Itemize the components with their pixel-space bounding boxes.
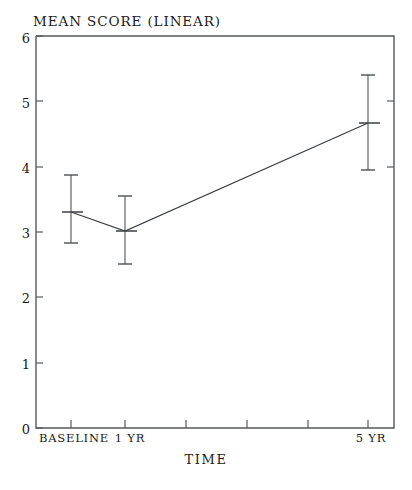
x-tick-label-1yr: 1 YR [115,431,145,445]
plot-area: 6 5 4 3 2 1 0 [0,0,412,448]
y-tick-label-3: 3 [22,226,30,241]
y-tick-label-6: 6 [22,31,30,46]
x-tick-labels: BASELINE 1 YR 5 YR [39,431,386,445]
y-tick-marks-right [387,101,394,167]
y-tick-marks [36,36,43,428]
series-line-mean-score [71,123,368,231]
error-bar-5yr [359,75,380,170]
y-tick-label-0: 0 [22,422,30,437]
x-tick-label-5yr: 5 YR [356,431,386,445]
x-tick-label-baseline: BASELINE [39,431,109,445]
y-tick-labels: 6 5 4 3 2 1 0 [22,31,30,437]
plot-frame [36,36,394,428]
x-tick-marks [71,420,368,428]
y-tick-label-2: 2 [22,291,30,306]
y-tick-label-1: 1 [22,357,30,372]
y-tick-label-4: 4 [22,161,30,176]
error-bar-baseline [62,175,83,243]
chart-page: MEAN SCORE (LINEAR) 6 5 4 3 2 1 0 [0,0,412,490]
x-axis-title: TIME [0,452,412,467]
y-tick-label-5: 5 [22,96,30,111]
